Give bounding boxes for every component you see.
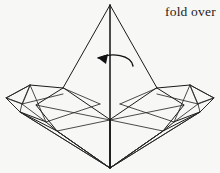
fold-over-caption: fold over (165, 4, 216, 19)
origami-figure: fold over (0, 0, 220, 173)
origami-diagram: fold over (0, 0, 220, 173)
